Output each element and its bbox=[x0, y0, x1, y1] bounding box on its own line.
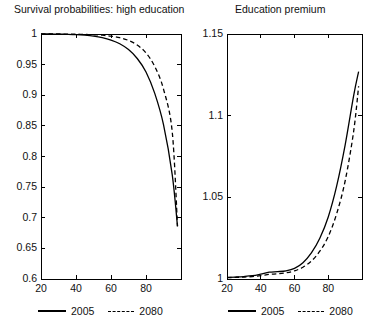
legend-survival: 2005 2080 bbox=[38, 305, 163, 317]
x-axis-tick-label: 20 bbox=[27, 283, 55, 294]
series-line-2005 bbox=[227, 72, 359, 278]
y-axis-tick-label: 0.8 bbox=[22, 151, 37, 162]
legend-entry-2005: 2005 bbox=[38, 305, 94, 317]
panel-survival-probabilities: Survival probabilities: high education 0… bbox=[0, 0, 190, 332]
legend-label: 2080 bbox=[329, 305, 352, 317]
x-axis-tick-label: 80 bbox=[314, 283, 342, 294]
series-line-2005 bbox=[41, 34, 178, 226]
legend-label: 2005 bbox=[71, 305, 94, 317]
legend-label: 2080 bbox=[139, 305, 162, 317]
figure-root: Survival probabilities: high education 0… bbox=[0, 0, 377, 332]
legend-label: 2005 bbox=[261, 305, 284, 317]
solid-line-swatch-icon bbox=[38, 310, 66, 312]
solid-line-swatch-icon bbox=[228, 310, 256, 312]
y-axis-tick-label: 1.05 bbox=[203, 191, 223, 202]
y-axis-tick-label: 1.1 bbox=[208, 110, 223, 121]
x-axis-tick-label: 60 bbox=[97, 283, 125, 294]
y-axis-tick-label: 1.15 bbox=[203, 28, 223, 39]
y-axis-tick-label: 0.7 bbox=[22, 212, 37, 223]
y-axis-tick-label: 0.85 bbox=[17, 120, 37, 131]
series-line-2080 bbox=[41, 34, 178, 226]
panel-education-premium: Education premium 11.051.11.1520406080 bbox=[190, 0, 377, 332]
y-axis-tick-label: 0.9 bbox=[22, 89, 37, 100]
legend-premium: 2005 2080 bbox=[228, 305, 353, 317]
legend-entry-2005: 2005 bbox=[228, 305, 284, 317]
x-axis-tick-label: 60 bbox=[281, 283, 309, 294]
dashed-line-swatch-icon bbox=[298, 311, 324, 312]
y-axis-tick-label: 0.95 bbox=[17, 59, 37, 70]
y-axis-tick-label: 0.65 bbox=[17, 242, 37, 253]
x-axis-tick-label: 40 bbox=[62, 283, 90, 294]
dashed-line-swatch-icon bbox=[108, 311, 134, 312]
x-axis-tick-label: 40 bbox=[247, 283, 275, 294]
x-axis-tick-label: 20 bbox=[213, 283, 241, 294]
legend-entry-2080: 2080 bbox=[108, 305, 162, 317]
series-line-2080 bbox=[227, 86, 359, 277]
y-axis-tick-label: 1 bbox=[31, 28, 37, 39]
legend-entry-2080: 2080 bbox=[298, 305, 352, 317]
x-axis-tick-label: 80 bbox=[132, 283, 160, 294]
y-axis-tick-label: 0.75 bbox=[17, 181, 37, 192]
